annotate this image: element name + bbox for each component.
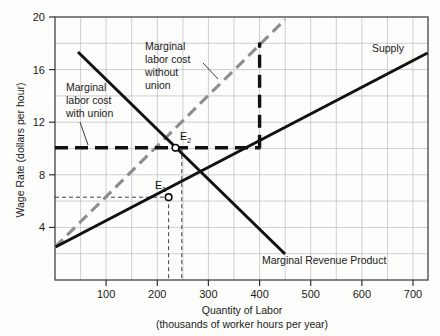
chart-svg: 20 16 12 8 4 100 200 300 400 500 600 700… [0,0,440,336]
annotation-mlc-without-union-line3: without [144,66,178,78]
annotation-mlc-with-union-line3: with union [65,107,113,119]
y-tick-label-8: 8 [39,169,45,181]
annotation-marginal-revenue-product: Marginal Revenue Product [262,254,386,266]
equilibrium-point-e2 [172,145,179,152]
equilibrium-point-e1 [165,194,172,201]
x-axis-title-line2: (thousands of worker hours per year) [156,318,328,330]
annotation-mlc-without-union-line1: Marginal [145,40,185,52]
annotation-supply: Supply [372,42,405,54]
x-tick-label-400: 400 [250,288,268,300]
equilibrium-label-e2: E [180,130,187,142]
equilibrium-sub-e2: 2 [187,136,191,145]
annotation-mlc-without-union-line4: union [145,79,171,91]
x-tick-label-500: 500 [302,288,320,300]
x-tick-label-700: 700 [404,288,422,300]
equilibrium-sub-e1: 1 [162,185,166,194]
y-tick-label-12: 12 [33,116,45,128]
y-tick-label-20: 20 [33,11,45,23]
y-tick-label-4: 4 [39,221,45,233]
x-tick-label-300: 300 [199,288,217,300]
y-tick-label-16: 16 [33,64,45,76]
x-tick-label-600: 600 [353,288,371,300]
x-tick-label-100: 100 [97,288,115,300]
annotation-mlc-with-union-line2: labor cost [66,94,112,106]
x-axis-title-line1: Quantity of Labor [202,304,283,316]
y-axis-title: Wage Rate (dollars per hour) [14,82,26,217]
x-tick-label-200: 200 [148,288,166,300]
economics-chart-figure: 20 16 12 8 4 100 200 300 400 500 600 700… [0,0,440,336]
annotation-mlc-with-union-line1: Marginal [66,81,106,93]
annotation-mlc-without-union-line2: labor cost [145,53,191,65]
equilibrium-label-e1: E [155,179,162,191]
